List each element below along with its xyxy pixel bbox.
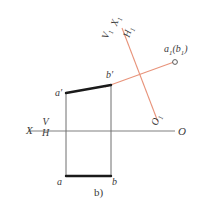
- point-marker-a1b1: [173, 60, 178, 65]
- b-letter: b: [112, 176, 117, 187]
- point-label-a1b1: a1(b1): [164, 44, 188, 57]
- plane-label-v: V: [43, 117, 49, 128]
- axis-label-o: O: [178, 126, 186, 137]
- b-prime-mark: ′: [111, 69, 113, 80]
- point-label-b: b: [112, 177, 117, 187]
- point-label-b-prime: b′: [106, 70, 113, 80]
- point-label-a: a: [57, 177, 62, 187]
- a-letter: a: [57, 176, 62, 187]
- paren-close: ): [184, 43, 187, 54]
- projection-ray-line: [105, 62, 174, 87]
- plane-labels-vh: V H: [42, 117, 49, 138]
- figure-canvas: X V H O X1 V1 H1 O1 a′ b′ a b a1(b1) b): [0, 0, 205, 205]
- a-prime-mark: ′: [60, 87, 62, 98]
- figure-caption: b): [94, 186, 103, 198]
- front-view-segment-ab: [66, 85, 111, 93]
- point-label-a-prime: a′: [55, 88, 62, 98]
- plane-label-h: H: [42, 128, 49, 139]
- axis-label-x: X: [26, 125, 33, 136]
- auxiliary-axis-line: [122, 28, 158, 122]
